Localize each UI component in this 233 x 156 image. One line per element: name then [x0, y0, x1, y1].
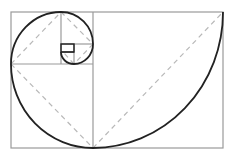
background — [0, 0, 233, 156]
golden-spiral-diagram — [0, 0, 233, 156]
